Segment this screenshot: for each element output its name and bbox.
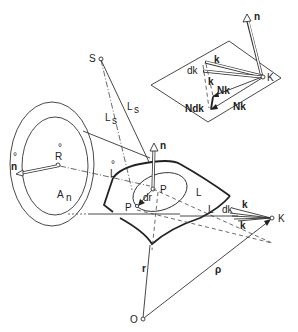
aperture-ring-group: R ° n ° A n — [10, 102, 94, 226]
n-accent: ° — [13, 151, 17, 162]
L-accent: ° — [111, 159, 115, 170]
inset-Nk-label: Nk — [217, 85, 230, 96]
r-vector — [143, 245, 150, 318]
point-P-bar — [135, 204, 138, 207]
surface-n-label: n — [160, 140, 166, 151]
point-O — [141, 317, 145, 321]
source-group: S L s L s — [89, 53, 149, 190]
aperture-outer-ellipse — [10, 102, 94, 226]
inset-Ndk-vector — [211, 97, 213, 109]
arrowhead-icon — [150, 143, 158, 151]
inset-point-K — [261, 75, 265, 79]
surface-group: n P dr P L L — [104, 140, 272, 250]
K-label: K — [278, 213, 285, 224]
dr-label: dr — [143, 192, 153, 203]
r-label: r — [142, 263, 146, 274]
inset-n-label: n — [254, 11, 260, 22]
inset-k1-label: k — [214, 54, 220, 65]
surface-upper-edge — [113, 161, 230, 196]
inset-dk-label: dk — [187, 65, 199, 76]
S-label: S — [89, 53, 96, 64]
ring-center-ray-L — [60, 166, 150, 186]
L-right-label: L — [196, 187, 202, 198]
inset-K-label: K — [267, 72, 274, 83]
A-subscript: n — [66, 192, 72, 203]
arrowhead-icon — [243, 14, 251, 22]
aperture-normal-vector-inner — [22, 166, 57, 173]
optics-diagram: n k dk k K Nk Ndk Nk R ° n ° A — [0, 0, 298, 332]
aperture-n-label: n — [11, 161, 17, 172]
Ls-subscript: s — [134, 104, 139, 115]
k-lower-label: k — [240, 220, 246, 231]
P-label: P — [160, 184, 167, 195]
L-lower-label: L — [208, 204, 214, 215]
k-upper-label: k — [242, 199, 248, 210]
A-label: A — [57, 189, 64, 200]
Ls-bar-subscript: s — [112, 115, 117, 126]
O-label: O — [130, 314, 138, 325]
arrowhead-icon — [264, 219, 271, 226]
Ls-label: L — [127, 101, 133, 112]
point-K-group: K k k dk — [180, 199, 285, 231]
P-bar-label: P — [125, 202, 132, 213]
inset-k2-label: k — [208, 76, 214, 87]
Ls-bar-label: L — [105, 112, 111, 123]
inset-normal-vector-inner — [248, 20, 262, 77]
surface-left-edge — [104, 178, 113, 212]
rho-label: ρ — [215, 264, 221, 275]
inset-Nk-bar-label: Nk — [233, 101, 246, 112]
dk-label: dk — [222, 204, 234, 215]
R-accent: ° — [58, 142, 62, 153]
origin-group: r ρ O — [130, 219, 271, 325]
surface-normal-vector-inner — [153, 149, 154, 187]
Ls-line — [101, 60, 149, 162]
inset-Ndk-label: Ndk — [185, 103, 204, 114]
inset-plane-group: n k dk k K Nk Ndk Nk — [151, 11, 281, 122]
